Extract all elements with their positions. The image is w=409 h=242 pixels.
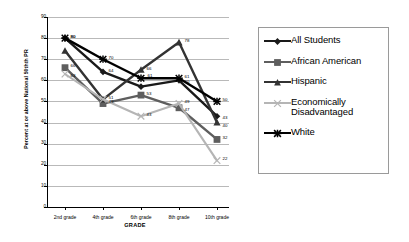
legend-label: African American xyxy=(291,56,361,67)
data-label: 80 xyxy=(71,35,76,39)
data-point-marker xyxy=(213,98,221,105)
data-label: 61 xyxy=(148,74,153,78)
legend-label-line: Hispanic xyxy=(291,76,327,87)
data-point-marker xyxy=(137,75,145,82)
data-label: 32 xyxy=(223,136,228,140)
data-label: 78 xyxy=(185,39,190,43)
series-layer xyxy=(47,17,229,208)
data-label: 64 xyxy=(109,69,114,73)
data-label: 66 xyxy=(147,67,152,71)
data-label: 49 xyxy=(109,100,114,104)
legend-label-line: African American xyxy=(291,56,361,67)
y-tick-label: 90 xyxy=(30,15,46,20)
data-point-marker xyxy=(99,56,107,63)
data-point-marker xyxy=(62,64,69,71)
legend-item[interactable]: Hispanic xyxy=(259,76,388,88)
data-label: 66 xyxy=(71,64,76,68)
series-line xyxy=(65,42,217,122)
data-label: 60 xyxy=(185,80,190,84)
data-point-marker xyxy=(61,34,69,41)
y-tick-label: 30 xyxy=(30,141,46,146)
data-label: 70 xyxy=(109,56,114,60)
plot-area: 0102030405060708090 2nd grade4th grade6t… xyxy=(47,17,229,208)
data-label: 43 xyxy=(147,113,152,117)
legend-marker-icon xyxy=(264,127,291,138)
data-label: 43 xyxy=(223,116,228,120)
legend-marker-icon xyxy=(264,56,291,67)
legend-item[interactable]: EconomicallyDisadvantaged xyxy=(259,97,388,118)
data-label: 50 xyxy=(223,98,228,102)
y-tick-label: 50 xyxy=(30,99,46,104)
x-tick-label: 10th grade xyxy=(195,214,239,220)
data-point-marker xyxy=(61,47,68,54)
y-tick-label: 40 xyxy=(30,120,46,125)
data-label: 61 xyxy=(185,75,190,79)
data-point-marker xyxy=(138,92,145,99)
legend-label-line: Disadvantaged xyxy=(291,107,353,118)
y-tick-label: 0 xyxy=(30,205,46,210)
legend-item[interactable]: All Students xyxy=(259,35,388,47)
legend-label: Hispanic xyxy=(291,76,327,87)
y-tick-label: 20 xyxy=(30,162,46,167)
data-label: 49 xyxy=(185,100,190,104)
data-label: 40 xyxy=(223,124,228,128)
legend-item[interactable]: African American xyxy=(259,56,388,68)
y-tick-label: 70 xyxy=(30,57,46,62)
data-point-marker xyxy=(138,83,145,90)
y-tick-label: 60 xyxy=(30,78,46,83)
chart-root: Percent at or above National 50thth PR G… xyxy=(0,0,409,242)
y-tick-label: 10 xyxy=(30,184,46,189)
data-point-marker xyxy=(214,136,221,143)
legend-label: All Students xyxy=(291,35,341,46)
x-axis-title: GRADE xyxy=(40,222,230,228)
data-label: 51 xyxy=(109,96,114,100)
data-label: 22 xyxy=(223,157,228,161)
legend-label: White xyxy=(291,127,315,138)
data-point-marker xyxy=(214,157,221,164)
legend-label-line: White xyxy=(291,127,315,138)
legend-marker-icon xyxy=(264,97,291,108)
legend-marker-icon xyxy=(264,77,291,88)
data-label: 63 xyxy=(71,74,76,78)
legend-label-line: All Students xyxy=(291,35,341,46)
data-point-marker xyxy=(175,75,183,82)
y-axis-title: Percent at or above National 50thth PR xyxy=(23,29,29,169)
legend-marker-icon xyxy=(264,36,291,47)
data-label: 53 xyxy=(147,92,152,96)
legend-label: EconomicallyDisadvantaged xyxy=(291,97,353,118)
data-point-marker xyxy=(175,39,182,46)
legend: All StudentsAfrican AmericanHispanicEcon… xyxy=(258,27,389,174)
data-label: 47 xyxy=(185,108,190,112)
data-point-marker xyxy=(62,71,69,78)
y-tick-label: 80 xyxy=(30,36,46,41)
legend-item[interactable]: White xyxy=(259,127,388,139)
